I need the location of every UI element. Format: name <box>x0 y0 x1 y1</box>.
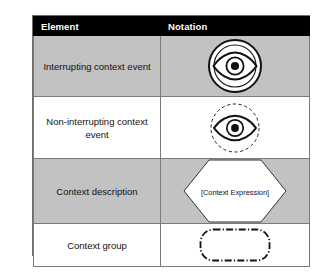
table-row: Non-interrupting context event <box>34 97 310 159</box>
notation-cell-non-interrupting-context-event <box>161 97 310 159</box>
notation-cell-context-description: [Context Expression] <box>161 159 310 224</box>
eye-in-double-solid-circle-icon <box>207 38 263 94</box>
element-cell-context-group: Context group <box>34 224 161 267</box>
table-row: Context group <box>34 224 310 267</box>
notation-cell-interrupting-context-event <box>161 36 310 97</box>
element-label: Context description <box>34 185 160 198</box>
column-header-notation: Notation <box>161 17 310 36</box>
hexagon-shape-icon: [Context Expression] <box>183 159 287 223</box>
notation-table: Element Notation Interrupting context ev… <box>32 15 310 256</box>
dash-dot-rounded-rectangle-icon <box>199 228 271 262</box>
column-header-element: Element <box>34 17 161 36</box>
element-cell-context-description: Context description <box>34 159 161 224</box>
element-cell-non-interrupting-context-event: Non-interrupting context event <box>34 97 161 159</box>
table-header-row: Element Notation <box>34 17 310 36</box>
element-notation-table: Element Notation Interrupting context ev… <box>33 16 310 267</box>
notation-cell-context-group <box>161 224 310 267</box>
element-label: Non-interrupting context event <box>34 115 160 141</box>
element-label: Context group <box>34 239 160 252</box>
element-cell-interrupting-context-event: Interrupting context event <box>34 36 161 97</box>
eye-in-dashed-circle-icon <box>209 102 261 154</box>
table-row: Context description [Context Expression] <box>34 159 310 224</box>
element-label: Interrupting context event <box>34 60 160 73</box>
context-expression-label: [Context Expression] <box>201 188 269 197</box>
table-row: Interrupting context event <box>34 36 310 97</box>
